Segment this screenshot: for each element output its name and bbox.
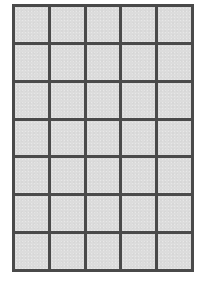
grid-cell-r1-c5: [158, 7, 191, 42]
grid-cell-r1-c1: [15, 7, 48, 42]
grid-cell-r6-c2: [51, 196, 84, 231]
grid-cell-r1-c3: [87, 7, 120, 42]
grid-cell-r7-c2: [51, 234, 84, 269]
grid-cell-r7-c1: [15, 234, 48, 269]
grid-cell-r2-c1: [15, 45, 48, 80]
grid-cell-r5-c2: [51, 158, 84, 193]
grid-cell-r4-c3: [87, 121, 120, 156]
grid-cell-r2-c4: [122, 45, 155, 80]
grid-cell-r4-c4: [122, 121, 155, 156]
grid-cell-r3-c2: [51, 83, 84, 118]
grid-cell-r4-c5: [158, 121, 191, 156]
grid-cell-r3-c4: [122, 83, 155, 118]
grid-cell-r2-c2: [51, 45, 84, 80]
grid-cell-r2-c5: [158, 45, 191, 80]
grid-cell-r4-c1: [15, 121, 48, 156]
grid-cell-r2-c3: [87, 45, 120, 80]
grid: [12, 4, 194, 272]
grid-cell-r5-c4: [122, 158, 155, 193]
grid-cell-r4-c2: [51, 121, 84, 156]
grid-cell-r7-c3: [87, 234, 120, 269]
grid-cell-r6-c4: [122, 196, 155, 231]
grid-cell-r3-c5: [158, 83, 191, 118]
grid-cell-r5-c3: [87, 158, 120, 193]
grid-cell-r1-c2: [51, 7, 84, 42]
grid-cell-r1-c4: [122, 7, 155, 42]
grid-cell-r6-c3: [87, 196, 120, 231]
canvas: [0, 0, 204, 285]
grid-cell-r3-c3: [87, 83, 120, 118]
grid-cell-r7-c4: [122, 234, 155, 269]
grid-cell-r5-c1: [15, 158, 48, 193]
grid-cell-r3-c1: [15, 83, 48, 118]
grid-cell-r7-c5: [158, 234, 191, 269]
grid-cell-r6-c5: [158, 196, 191, 231]
grid-cell-r5-c5: [158, 158, 191, 193]
grid-cell-r6-c1: [15, 196, 48, 231]
